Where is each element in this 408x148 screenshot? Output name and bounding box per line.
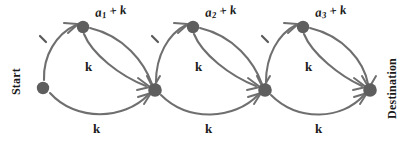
a2-suffix: + k bbox=[218, 2, 237, 19]
stub-tick-3 bbox=[262, 36, 268, 42]
a1-sub: 1 bbox=[101, 10, 107, 20]
edge-label-k-bottom-3: k bbox=[315, 122, 322, 135]
a2-sub: 2 bbox=[211, 10, 217, 20]
node-b1[interactable] bbox=[148, 83, 162, 97]
edge-label-k-mid-2: k bbox=[195, 60, 202, 73]
edge-b1-to-b2-bottom bbox=[161, 95, 258, 115]
edge-label-k-mid-3: k bbox=[305, 60, 312, 73]
start-label: Start bbox=[10, 68, 22, 95]
edge-label-k-bottom-2: k bbox=[205, 122, 212, 135]
a3-suffix: + k bbox=[328, 2, 347, 19]
edge-start-to-b1-bottom bbox=[50, 93, 148, 114]
diagram-canvas: Start Destination a1 + k a2 + k a3 + k k… bbox=[0, 0, 408, 148]
edge-label-k-bottom-1: k bbox=[93, 122, 100, 135]
edge-start-to-t1 bbox=[44, 25, 76, 80]
edge-b2-to-dest-bottom bbox=[271, 95, 364, 115]
edge-t2-to-b2-inner bbox=[194, 34, 256, 86]
node-t1[interactable] bbox=[77, 21, 89, 33]
node-dest[interactable] bbox=[363, 83, 377, 97]
a1-suffix: + k bbox=[108, 2, 127, 19]
node-b2[interactable] bbox=[258, 83, 272, 97]
edge-t1-to-b1-inner bbox=[84, 34, 146, 86]
node-start[interactable] bbox=[37, 82, 49, 94]
edge-b1-to-t2 bbox=[156, 25, 186, 82]
edge-b2-to-t3 bbox=[266, 25, 296, 82]
graph-svg bbox=[0, 0, 408, 148]
destination-label: Destination bbox=[386, 58, 398, 119]
stub-tick-2 bbox=[152, 36, 158, 42]
a3-sub: 3 bbox=[321, 10, 327, 20]
stub-tick-1 bbox=[40, 36, 46, 42]
edge-label-k-mid-1: k bbox=[85, 60, 92, 73]
node-t2[interactable] bbox=[187, 21, 199, 33]
node-t3[interactable] bbox=[297, 21, 309, 33]
